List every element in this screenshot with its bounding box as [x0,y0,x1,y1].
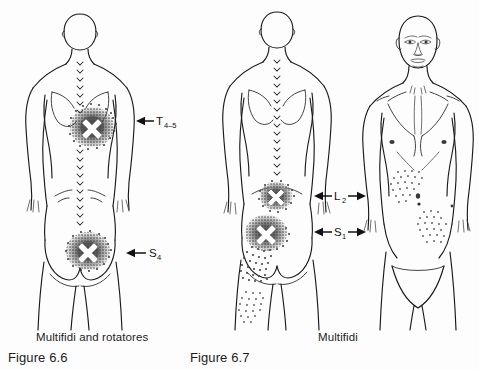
label-t4-5-sub: 4–5 [164,121,177,130]
caption-6-6-number: Figure 6.6 [8,350,68,365]
label-s4-main: S [149,247,157,259]
caption-6-7-name: Multifidi [318,331,358,343]
label-l2-sub: 2 [342,196,346,205]
label-s1-sub: 1 [342,232,346,241]
anterior-lateral-dot [451,205,454,208]
label-s1-main: S [334,226,342,238]
caption-6-7-number: Figure 6.7 [190,350,250,365]
figure-plate: T 4–5 S 4 [0,0,479,370]
anatomy-illustration: T 4–5 S 4 [0,0,479,370]
label-s4-sub: 4 [157,253,161,262]
label-l2-main: L [334,190,341,202]
anterior-marker-dot [417,202,420,205]
label-t4-5-main: T [156,115,163,127]
caption-6-6-name: Multifidi and rotatores [36,331,148,343]
